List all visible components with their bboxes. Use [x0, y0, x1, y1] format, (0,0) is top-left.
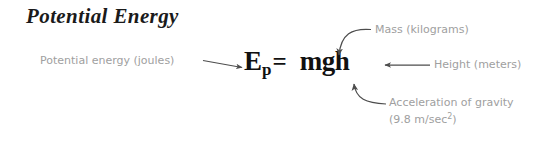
arrow-potential-energy-to-E — [203, 61, 242, 68]
potential-energy-diagram: Potential Energy Ep=mgh Potential energy… — [0, 0, 556, 142]
arrow-gravity-to-g — [354, 84, 386, 104]
annotation-arrows-layer — [0, 0, 556, 142]
arrow-mass-to-m — [339, 29, 371, 55]
